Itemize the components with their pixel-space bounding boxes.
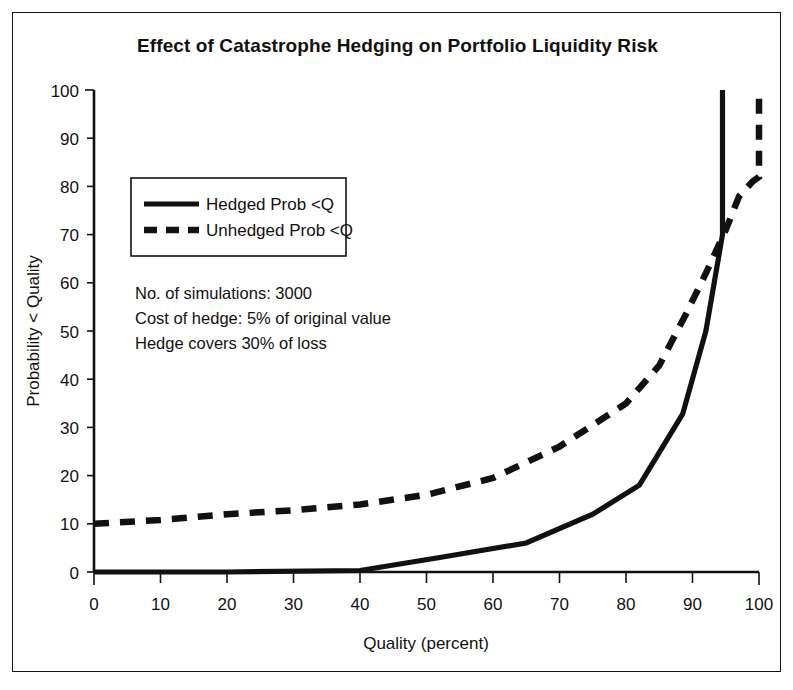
x-axis-title: Quality (percent) [363,634,489,653]
y-tick-label: 90 [60,130,79,149]
y-tick-label: 100 [51,82,79,101]
x-tick-label: 80 [617,595,636,614]
y-tick-marks [85,90,94,572]
x-tick-label: 70 [550,595,569,614]
y-tick-label: 50 [60,323,79,342]
chart-annotations: No. of simulations: 3000 Cost of hedge: … [135,284,391,352]
x-tick-label: 30 [284,595,303,614]
chart-plot-area: 100 90 80 70 60 50 40 30 20 10 0 [13,13,782,673]
y-tick-label: 10 [60,515,79,534]
x-tick-label: 90 [683,595,702,614]
x-tick-label: 20 [218,595,237,614]
y-tick-label: 60 [60,274,79,293]
y-tick-label: 0 [70,564,79,583]
x-tick-label: 100 [745,595,773,614]
annotation-line-cost: Cost of hedge: 5% of original value [135,309,391,327]
y-tick-label: 40 [60,371,79,390]
figure-frame-border: Effect of Catastrophe Hedging on Portfol… [12,12,781,672]
y-tick-label: 70 [60,226,79,245]
x-tick-label: 40 [351,595,370,614]
chart-legend: Hedged Prob <Q Unhedged Prob <Q [131,178,353,256]
figure-container: Effect of Catastrophe Hedging on Portfol… [0,0,793,690]
annotation-line-simulations: No. of simulations: 3000 [135,284,312,302]
series-unhedged-prob-line [94,90,759,524]
x-tick-label: 10 [151,595,170,614]
x-tick-label: 50 [417,595,436,614]
x-tick-label: 60 [484,595,503,614]
y-tick-labels: 100 90 80 70 60 50 40 30 20 10 0 [51,82,79,583]
legend-label-unhedged: Unhedged Prob <Q [206,221,353,240]
annotation-line-coverage: Hedge covers 30% of loss [135,334,327,352]
y-tick-label: 20 [60,467,79,486]
y-tick-label: 30 [60,419,79,438]
legend-box [131,178,346,256]
legend-label-hedged: Hedged Prob <Q [206,195,334,214]
x-tick-labels: 0 10 20 30 40 50 60 70 80 90 100 [89,595,773,614]
x-tick-label: 0 [89,595,98,614]
y-axis-title: Probability < Quality [24,255,43,407]
y-tick-label: 80 [60,178,79,197]
